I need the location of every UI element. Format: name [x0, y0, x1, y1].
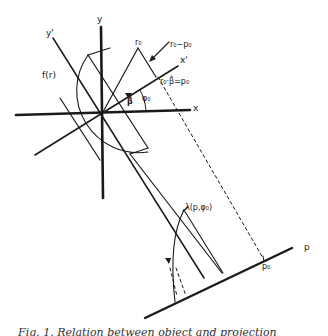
p0-label: p₀ — [262, 262, 270, 271]
x-axis-label: x — [193, 103, 199, 113]
phi0-label: φ₀ — [142, 94, 150, 103]
object-strip-edge — [88, 48, 110, 55]
y-axis-label: y — [97, 14, 103, 24]
f-r-semicircle — [77, 55, 148, 153]
beta-label: β̂ — [127, 95, 133, 106]
r0-dot-beta-label: r₀·β̂=p₀ — [160, 75, 189, 86]
projection-geometry-diagram: y x y' x' f(r) r₀ r₀−p₀ r₀·β̂=p₀ β̂ φ₀ λ… — [0, 0, 328, 336]
r0-perp — [138, 48, 156, 77]
p-axis-label: p — [304, 242, 310, 252]
r0-minus-p0-label: r₀−p₀ — [170, 40, 191, 49]
r0-label: r₀ — [135, 38, 142, 47]
projection-arrowhead — [165, 258, 171, 264]
lambda-label: λ(p,φ₀) — [185, 203, 212, 212]
object-strip-left-line — [60, 98, 100, 160]
p0-tick — [263, 256, 264, 261]
figure-caption: Fig. 1. Relation between object and proj… — [18, 326, 318, 336]
f-r-label: f(r) — [42, 70, 56, 80]
lambda-dashed-2 — [176, 268, 186, 296]
y-prime-axis — [53, 38, 204, 278]
x-prime-label: x' — [180, 55, 188, 65]
projection-ray-right — [130, 154, 222, 273]
object-strip-right-edge — [88, 55, 148, 148]
lambda-right-edge — [184, 210, 223, 273]
y-prime-label: y' — [46, 28, 54, 38]
